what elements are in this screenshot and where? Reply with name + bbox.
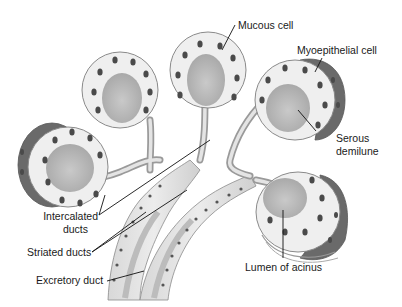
acinus-lower-right <box>256 172 348 262</box>
label-serous-demilune-line2: demilune <box>336 145 379 157</box>
salivary-gland-diagram: Mucous cell Myoepithelial cell Serous de… <box>0 0 402 307</box>
duct-trunk <box>108 160 256 300</box>
acinus-left <box>18 123 108 207</box>
label-lumen-of-acinus: Lumen of acinus <box>245 261 322 273</box>
label-serous-demilune-line1: Serous <box>336 132 369 144</box>
label-striated-ducts: Striated ducts <box>27 246 91 258</box>
acinus-upper-left <box>82 52 158 128</box>
label-intercalated-line1: Intercalated <box>20 210 98 222</box>
label-intercalated-line2: ducts <box>20 223 88 235</box>
label-mucous-cell: Mucous cell <box>238 19 293 31</box>
label-excretory-duct: Excretory duct <box>36 274 103 286</box>
label-myoepithelial-cell: Myoepithelial cell <box>297 44 377 56</box>
acinus-top-center <box>170 32 246 108</box>
acinus-upper-right <box>255 59 345 140</box>
